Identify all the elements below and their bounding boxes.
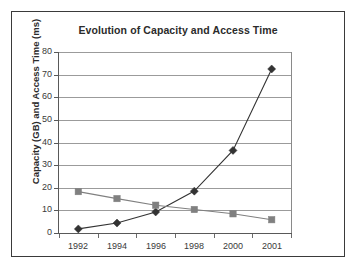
data-point-square <box>114 195 120 201</box>
data-point-square <box>230 211 236 217</box>
data-point-diamond <box>152 208 160 216</box>
data-point-square <box>191 206 197 212</box>
data-point-square <box>75 188 81 194</box>
data-point-square <box>269 217 275 223</box>
data-point-diamond <box>113 219 121 227</box>
series-plot <box>0 0 362 277</box>
data-point-square <box>153 202 159 208</box>
data-point-diamond <box>74 225 82 233</box>
data-point-diamond <box>268 65 276 73</box>
series-2 <box>75 188 275 223</box>
series-line <box>78 192 271 220</box>
series-line <box>78 69 271 229</box>
